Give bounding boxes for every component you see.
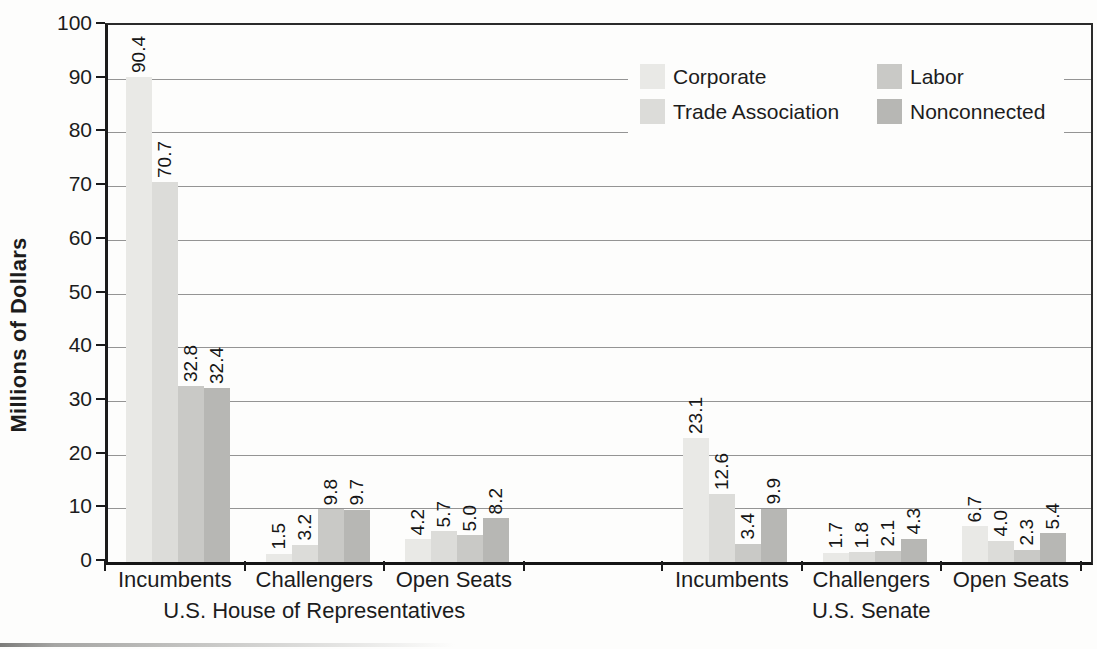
legend-swatch-trade-association (640, 99, 665, 124)
legend-label: Trade Association (673, 99, 839, 124)
bar-value-label: 12.6 (712, 453, 732, 490)
bar-labor (318, 509, 344, 562)
y-tick-label: 40 (36, 333, 92, 357)
y-tick-label: 10 (36, 494, 92, 518)
legend-swatch-nonconnected (877, 99, 902, 124)
category-label: Open Seats (396, 567, 512, 593)
gridline (108, 186, 1091, 187)
category-label: Incumbents (118, 567, 232, 593)
bar-value-label: 4.0 (991, 510, 1011, 536)
gridline (108, 294, 1091, 295)
y-tick-mark (96, 129, 105, 131)
y-tick-mark (96, 505, 105, 507)
bar-value-label: 1.7 (826, 522, 846, 548)
bar-value-label: 9.8 (321, 479, 341, 505)
y-tick-mark (96, 76, 105, 78)
scan-artifact-strip (0, 643, 455, 647)
section-label: U.S. Senate (812, 598, 931, 624)
bar-value-label: 2.3 (1017, 519, 1037, 545)
bar-value-label: 32.4 (207, 347, 227, 384)
bar-value-label: 23.1 (686, 397, 706, 434)
category-label: Open Seats (953, 567, 1069, 593)
y-tick-mark (96, 183, 105, 185)
gridline (108, 455, 1091, 456)
legend-label: Corporate (673, 64, 766, 89)
y-tick-mark (96, 398, 105, 400)
y-tick-label: 100 (36, 11, 92, 35)
bar-nonconnected (761, 509, 787, 562)
bar-value-label: 5.4 (1043, 503, 1063, 529)
bar-corporate (683, 438, 709, 562)
bar-trade-association (849, 552, 875, 562)
bar-nonconnected (344, 510, 370, 562)
bar-corporate (266, 554, 292, 562)
y-tick-label: 70 (36, 172, 92, 196)
bar-trade-association (431, 531, 457, 562)
legend-label: Labor (910, 64, 964, 89)
bar-nonconnected (1040, 533, 1066, 562)
bar-corporate (405, 539, 431, 562)
bar-labor (735, 544, 761, 562)
x-tick-mark (661, 561, 663, 571)
y-tick-mark (96, 344, 105, 346)
legend: CorporateTrade AssociationLaborNonconnec… (628, 57, 1064, 135)
bar-labor (1014, 550, 1040, 562)
bar-value-label: 4.2 (408, 509, 428, 535)
x-tick-mark (1080, 561, 1082, 571)
y-tick-label: 50 (36, 280, 92, 304)
gridline (108, 508, 1091, 509)
bar-corporate (962, 526, 988, 562)
bar-trade-association (709, 494, 735, 562)
bar-nonconnected (901, 539, 927, 562)
bar-value-label: 3.4 (738, 513, 758, 539)
bar-value-label: 1.8 (852, 522, 872, 548)
bar-value-label: 8.2 (486, 488, 506, 514)
x-tick-mark (940, 561, 942, 571)
bar-value-label: 1.5 (269, 523, 289, 549)
bar-value-label: 32.8 (181, 345, 201, 382)
bar-trade-association (292, 545, 318, 562)
section-label: U.S. House of Representatives (163, 598, 465, 624)
bar-corporate (126, 77, 152, 562)
bar-value-label: 5.7 (434, 501, 454, 527)
legend-swatch-labor (877, 64, 902, 89)
bar-trade-association (152, 182, 178, 562)
category-label: Challengers (813, 567, 930, 593)
x-tick-mark (383, 561, 385, 571)
bar-nonconnected (204, 388, 230, 562)
y-tick-mark (96, 22, 105, 24)
bar-value-label: 3.2 (295, 514, 315, 540)
y-tick-label: 60 (36, 226, 92, 250)
bar-value-label: 6.7 (965, 496, 985, 522)
bar-value-label: 5.0 (460, 505, 480, 531)
y-tick-mark (96, 452, 105, 454)
y-tick-mark (96, 237, 105, 239)
category-label: Challengers (256, 567, 373, 593)
y-tick-label: 90 (36, 65, 92, 89)
y-tick-label: 30 (36, 387, 92, 411)
bar-trade-association (988, 541, 1014, 563)
bar-value-label: 4.3 (904, 508, 924, 534)
y-tick-label: 80 (36, 118, 92, 142)
legend-swatch-corporate (640, 64, 665, 89)
y-axis-title: Millions of Dollars (6, 195, 34, 475)
bar-labor (178, 386, 204, 562)
gridline (108, 401, 1091, 402)
bar-value-label: 9.7 (347, 479, 367, 505)
bar-value-label: 90.4 (129, 36, 149, 73)
bar-value-label: 9.9 (764, 478, 784, 504)
bar-nonconnected (483, 518, 509, 562)
legend-label: Nonconnected (910, 99, 1045, 124)
gridline (108, 240, 1091, 241)
x-tick-mark (523, 561, 525, 571)
y-tick-label: 0 (36, 548, 92, 572)
category-label: Incumbents (675, 567, 789, 593)
bar-labor (457, 535, 483, 562)
bar-value-label: 2.1 (878, 520, 898, 546)
y-tick-mark (96, 291, 105, 293)
bar-value-label: 70.7 (155, 141, 175, 178)
bar-labor (875, 551, 901, 562)
gridline (108, 347, 1091, 348)
bar-corporate (823, 553, 849, 562)
x-tick-mark (244, 561, 246, 571)
